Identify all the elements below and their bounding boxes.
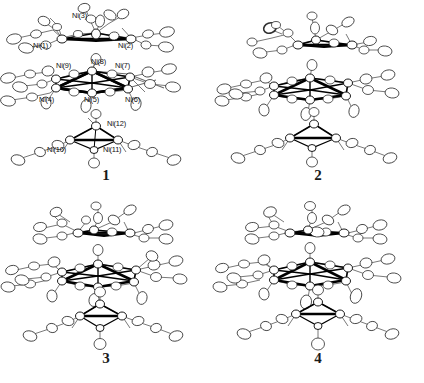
atom-label-ni5: Ni(5) <box>84 96 99 103</box>
panel-3-number: 3 <box>0 350 212 367</box>
middle-cluster <box>0 245 187 308</box>
structure-panel-2: 2 <box>212 0 424 191</box>
panel-1-number: 1 <box>0 167 212 184</box>
atom-label-ni12: Ni(12) <box>107 120 126 127</box>
atom-label-ni9: Ni(9) <box>56 62 71 69</box>
atom-label-ni10: Ni(10) <box>47 146 66 153</box>
bottom-cluster <box>230 108 398 168</box>
atom-label-ni6: Ni(6) <box>125 96 140 103</box>
panel-1-diagram <box>0 0 212 191</box>
atom-label-ni8: Ni(8) <box>91 58 106 65</box>
atom-label-ni7: Ni(7) <box>115 62 130 69</box>
panel-2-number: 2 <box>212 167 424 184</box>
ortep-figure: 1 Ni(3) Ni(1) Ni(2) Ni(9) Ni(8) Ni(7) Ni… <box>0 0 424 383</box>
top-cluster <box>244 202 388 246</box>
atom-label-ni1: Ni(1) <box>33 42 48 49</box>
panel-4-number: 4 <box>212 350 424 367</box>
structure-panel-3: 3 <box>0 192 212 383</box>
bottom-cluster <box>22 287 184 350</box>
bottom-cluster <box>10 110 182 169</box>
middle-cluster <box>212 243 401 310</box>
top-cluster <box>6 2 176 54</box>
atom-label-ni2: Ni(2) <box>118 42 133 49</box>
panel-2-diagram <box>212 0 424 191</box>
atom-label-ni3: Ni(3) <box>72 12 87 19</box>
top-cluster <box>247 12 393 59</box>
middle-cluster <box>214 60 399 122</box>
structure-panel-1: 1 Ni(3) Ni(1) Ni(2) Ni(9) Ni(8) Ni(7) Ni… <box>0 0 212 191</box>
atom-label-ni4: Ni(4) <box>39 96 54 103</box>
atom-label-ni11: Ni(11) <box>103 146 121 153</box>
top-cluster <box>32 202 174 245</box>
structure-panel-4: 4 <box>212 192 424 383</box>
